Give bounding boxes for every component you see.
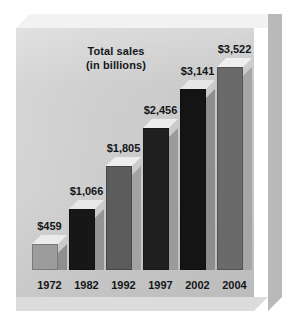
chart-title-line-2: (in billions): [16, 58, 216, 72]
bar[interactable]: [32, 244, 58, 270]
bar-front-face: [69, 209, 95, 270]
bar-top-face: [143, 119, 178, 128]
x-axis-labels: 197219821992199720022004: [16, 273, 254, 291]
bar[interactable]: [180, 89, 206, 270]
bar-top-face: [69, 200, 104, 209]
bar-top-face: [106, 157, 141, 166]
bar-side-face: [132, 166, 141, 270]
bar-value-label: $459: [20, 220, 79, 232]
bar-group: [106, 157, 141, 270]
plot-face: Total sales (in billions) $459$1,066$1,8…: [16, 28, 254, 297]
bar[interactable]: [106, 166, 132, 270]
bar-value-label: $1,066: [57, 185, 116, 197]
bar-front-face: [180, 89, 206, 270]
bar-front-face: [106, 166, 132, 270]
bar-value-label: $1,805: [94, 142, 153, 154]
bar-top-face: [180, 80, 215, 89]
bar-front-face: [32, 244, 58, 270]
slab-top-bevel: [16, 14, 282, 28]
x-tick-label: 2004: [211, 279, 254, 291]
bar-group: [69, 200, 104, 270]
bar-side-face: [95, 209, 104, 270]
slab-bottom-bevel: [16, 297, 268, 311]
bar-top-face: [32, 235, 67, 244]
chart-title-line-1: Total sales: [16, 44, 216, 58]
bar-side-face: [58, 244, 67, 270]
slab-right-bevel: [254, 14, 282, 311]
bar-value-label: $2,456: [131, 104, 190, 116]
bar[interactable]: [217, 67, 243, 270]
bar-side-face: [243, 67, 252, 270]
bar-group: [32, 235, 67, 270]
bar-group: [217, 58, 252, 270]
chart-figure: Total sales (in billions) $459$1,066$1,8…: [0, 0, 294, 324]
bar-front-face: [217, 67, 243, 270]
bar[interactable]: [69, 209, 95, 270]
bar-side-face: [206, 89, 215, 270]
chart-slab: Total sales (in billions) $459$1,066$1,8…: [16, 14, 282, 311]
chart-title: Total sales (in billions): [16, 44, 216, 72]
bar-side-face: [169, 128, 178, 270]
